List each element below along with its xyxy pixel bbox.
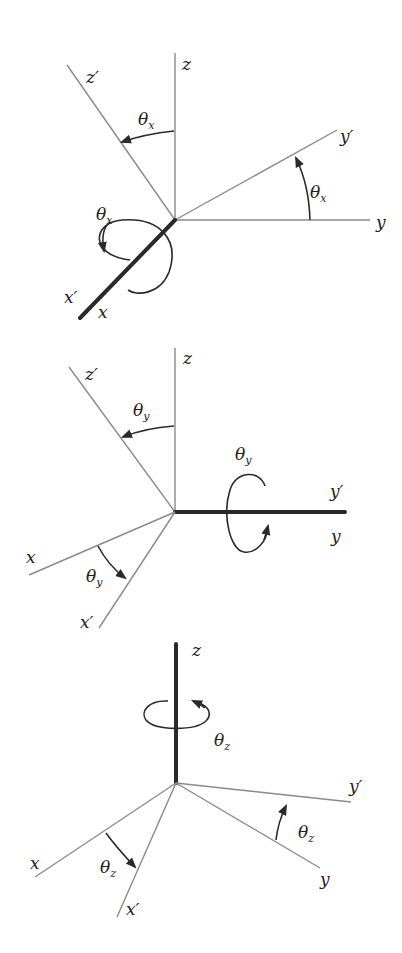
svg-text:z′: z′ [84, 364, 98, 384]
svg-text:z: z [181, 54, 192, 74]
z-prime-axis [67, 65, 175, 220]
svg-text:y: y [330, 526, 341, 546]
svg-text:θy: θy [86, 566, 103, 589]
theta-x-arc-y [296, 158, 310, 220]
svg-text:z: z [191, 640, 202, 660]
svg-text:θx: θx [310, 182, 327, 205]
panel-rotation-x: z z′ θx y′ θx y θx x′ x [64, 53, 386, 322]
x-prime-axis [99, 512, 175, 628]
z-prime-axis [69, 367, 175, 512]
svg-text:y′: y′ [329, 481, 344, 501]
svg-text:x′: x′ [80, 612, 94, 632]
svg-text:y′: y′ [348, 776, 363, 796]
panel-rotation-y: z z′ θy θy y′ y x θy x′ [26, 348, 345, 632]
theta-z-arc-x [106, 833, 135, 867]
svg-text:θz: θz [100, 857, 116, 880]
svg-text:x′: x′ [126, 899, 140, 919]
svg-text:x′: x′ [64, 287, 78, 307]
rotation-diagrams: z z′ θx y′ θx y θx x′ x z z′ θy θy y′ y … [0, 0, 402, 953]
svg-text:x: x [30, 853, 40, 873]
theta-y-arc-z [123, 426, 174, 437]
x-axis [29, 512, 175, 575]
svg-text:y: y [319, 869, 330, 889]
svg-text:y: y [375, 212, 386, 232]
svg-text:θx: θx [138, 109, 155, 132]
x-axis-bold [80, 220, 175, 318]
svg-text:θx: θx [96, 204, 113, 227]
svg-text:z′: z′ [85, 67, 99, 87]
svg-text:θz: θz [298, 822, 314, 845]
theta-z-arc-y [276, 806, 286, 840]
svg-text:z: z [182, 348, 193, 368]
y-prime-axis [175, 130, 337, 220]
theta-y-arc-x [98, 546, 125, 578]
theta-x-arc-z [122, 131, 174, 142]
svg-text:y′: y′ [339, 126, 354, 146]
rotation-arrow-x [99, 220, 172, 293]
panel-rotation-z: z θz y′ θz y x θz x′ [30, 640, 363, 919]
svg-text:θy: θy [133, 400, 150, 423]
svg-text:θy: θy [235, 444, 252, 467]
svg-text:x: x [98, 302, 108, 322]
svg-text:θz: θz [214, 730, 230, 753]
svg-text:x: x [26, 547, 36, 567]
